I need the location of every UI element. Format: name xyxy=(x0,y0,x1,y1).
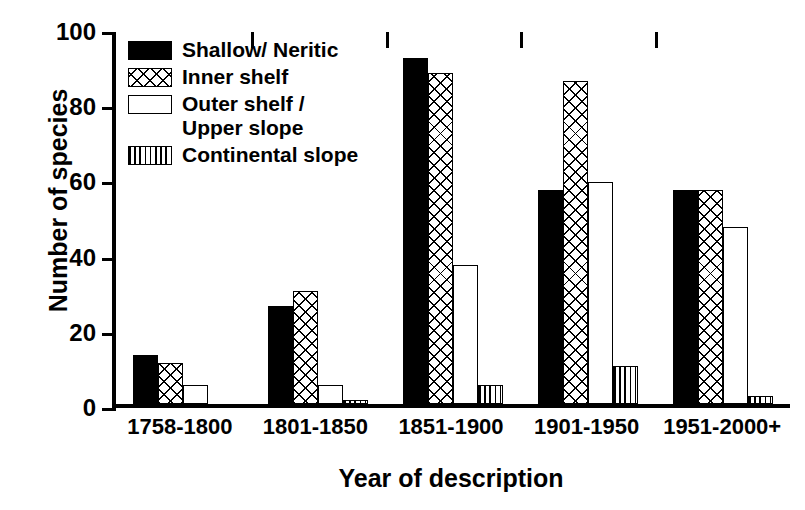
bar xyxy=(588,182,613,404)
legend-swatch-icon xyxy=(128,68,172,87)
x-tick-label-0: 1758-1800 xyxy=(112,414,248,440)
y-tick-label-0: 0 xyxy=(83,396,96,420)
legend-item-label: Continental slope xyxy=(182,143,358,167)
bar-chart-figure: Number of species 020406080100 1758-1800… xyxy=(0,0,805,510)
bar xyxy=(343,400,368,404)
bar-group xyxy=(386,32,521,404)
bar xyxy=(428,73,453,404)
legend-item-label: Outer shelf / Upper slope xyxy=(182,92,305,140)
legend-swatch-icon xyxy=(128,95,172,114)
bar-group xyxy=(655,32,790,404)
legend-swatch-icon xyxy=(128,146,172,165)
bar xyxy=(158,363,183,404)
legend-item: Shallow/ Neritic xyxy=(128,38,358,62)
bar xyxy=(748,396,773,404)
bar xyxy=(613,366,638,404)
y-tick-20 xyxy=(102,333,116,336)
bar xyxy=(133,355,158,404)
x-tick-label-2: 1851-1900 xyxy=(383,414,519,440)
legend-swatch-icon xyxy=(128,41,172,60)
x-axis-title: Year of description xyxy=(112,464,790,493)
y-tick-60 xyxy=(102,182,116,185)
x-tick-label-1: 1801-1850 xyxy=(248,414,384,440)
bar xyxy=(453,265,478,404)
bar xyxy=(698,190,723,404)
chart-legend: Shallow/ NeriticInner shelfOuter shelf /… xyxy=(128,38,358,167)
bar xyxy=(563,81,588,404)
bar xyxy=(673,190,698,404)
y-tick-label-100: 100 xyxy=(56,20,96,44)
bar-group xyxy=(520,32,655,404)
bar xyxy=(538,190,563,404)
bar xyxy=(268,306,293,404)
legend-item-label: Shallow/ Neritic xyxy=(182,38,338,62)
y-tick-label-80: 80 xyxy=(69,95,96,119)
legend-item: Outer shelf / Upper slope xyxy=(128,92,358,140)
x-axis-tick-labels: 1758-18001801-18501851-19001901-19501951… xyxy=(112,414,790,440)
bar xyxy=(293,291,318,404)
x-tick-label-4: 1951-2000+ xyxy=(654,414,790,440)
bar xyxy=(723,227,748,404)
y-tick-label-20: 20 xyxy=(69,321,96,345)
y-axis-title: Number of species xyxy=(44,51,73,351)
x-tick-label-3: 1901-1950 xyxy=(519,414,655,440)
y-tick-100 xyxy=(102,32,116,35)
y-tick-40 xyxy=(102,258,116,261)
y-tick-label-60: 60 xyxy=(69,170,96,194)
y-tick-label-40: 40 xyxy=(69,246,96,270)
y-tick-0 xyxy=(102,408,116,411)
bar xyxy=(318,385,343,404)
bar xyxy=(403,58,428,404)
legend-item: Inner shelf xyxy=(128,65,358,89)
legend-item: Continental slope xyxy=(128,143,358,167)
bar xyxy=(478,385,503,404)
bar xyxy=(183,385,208,404)
y-tick-80 xyxy=(102,107,116,110)
legend-item-label: Inner shelf xyxy=(182,65,288,89)
